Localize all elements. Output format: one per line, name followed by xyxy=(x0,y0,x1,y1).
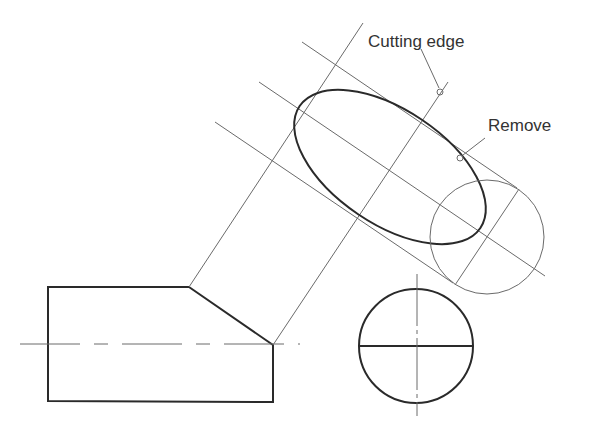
diagonal-line-axis xyxy=(259,82,545,276)
diagonal-line-bottom xyxy=(215,122,453,283)
label-remove: Remove xyxy=(488,116,551,135)
cutting-edge-leader xyxy=(421,49,439,88)
auxiliary-circle-diameter xyxy=(455,189,519,285)
projection-line-right xyxy=(273,82,448,345)
remove-leader-dot xyxy=(457,155,463,161)
label-cutting-edge: Cutting edge xyxy=(368,32,464,51)
diagonal-line-top xyxy=(302,42,517,188)
cut-face-ellipse xyxy=(268,59,512,275)
drawing-canvas: Cutting edge Remove xyxy=(0,0,592,433)
remove-leader xyxy=(463,138,485,155)
projection-line-left xyxy=(189,23,363,287)
